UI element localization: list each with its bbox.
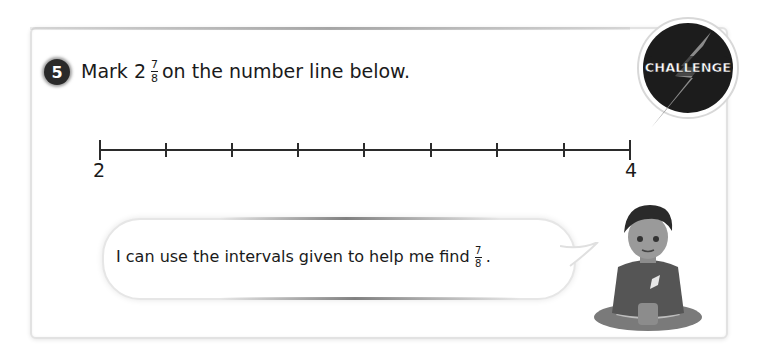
tick-start: [99, 140, 101, 160]
fraction-numerator: 7: [475, 246, 481, 256]
tick: [363, 143, 365, 157]
question-number-badge: 5: [44, 59, 70, 85]
panel-top-accent: [30, 27, 630, 30]
number-line-end-label: 4: [625, 159, 637, 181]
question-number: 5: [51, 63, 62, 82]
speech-bubble-text: I can use the intervals given to help me…: [116, 245, 491, 268]
child-character-illustration: [588, 195, 708, 335]
tick: [231, 143, 233, 157]
number-line-axis: [99, 149, 631, 151]
fraction-denominator: 8: [151, 73, 158, 84]
question-text: Mark 2 7 8 on the number line below.: [81, 58, 410, 83]
bubble-sentence: I can use the intervals given to help me…: [116, 247, 470, 266]
tick: [563, 143, 565, 157]
bubble-end: .: [486, 247, 491, 266]
question-prefix: Mark 2: [81, 60, 146, 82]
tick: [430, 143, 432, 157]
question-fraction: 7 8: [151, 59, 158, 84]
number-line-start-label: 2: [93, 159, 105, 181]
number-line[interactable]: [99, 139, 631, 161]
tick: [165, 143, 167, 157]
bubble-top-accent: [220, 217, 500, 220]
challenge-badge: CHALLENGE: [633, 16, 743, 136]
tick-end: [629, 140, 631, 160]
fraction-numerator: 7: [151, 59, 158, 70]
challenge-label: CHALLENGE: [645, 60, 731, 75]
bubble-bottom-accent: [220, 297, 520, 300]
question-suffix: on the number line below.: [162, 60, 410, 82]
tick: [496, 143, 498, 157]
tick: [297, 143, 299, 157]
bubble-fraction: 7 8: [475, 246, 482, 269]
fraction-denominator: 8: [475, 259, 481, 269]
lightning-bolt-icon: CHALLENGE: [633, 16, 743, 136]
